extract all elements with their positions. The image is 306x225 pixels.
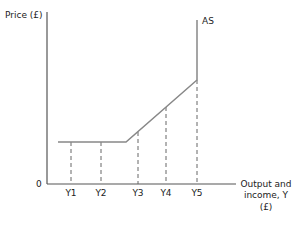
as-curve-label: AS bbox=[202, 16, 214, 26]
svg-text:income, Y: income, Y bbox=[244, 190, 289, 200]
aggregate-supply-diagram: Price (£) 0 AS Y1 Y2 Y3 Y4 Y5 Output and… bbox=[0, 0, 306, 225]
tick-y2: Y2 bbox=[94, 188, 106, 198]
tick-y3: Y3 bbox=[131, 188, 143, 198]
origin-label: 0 bbox=[36, 179, 42, 189]
as-curve bbox=[58, 20, 197, 142]
y-axis-label: Price (£) bbox=[5, 10, 43, 20]
tick-y5: Y5 bbox=[190, 188, 202, 198]
x-tick-labels: Y1 Y2 Y3 Y4 Y5 bbox=[64, 188, 202, 198]
svg-text:(£): (£) bbox=[260, 202, 273, 212]
tick-y1: Y1 bbox=[64, 188, 76, 198]
svg-text:Output and: Output and bbox=[240, 179, 291, 189]
tick-y4: Y4 bbox=[159, 188, 171, 198]
x-axis-label: Output and income, Y (£) bbox=[240, 179, 291, 212]
